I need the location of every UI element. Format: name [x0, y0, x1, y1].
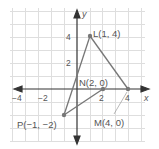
label-P: P(−1, −2)	[17, 119, 57, 130]
tick-x-2: 2	[99, 93, 104, 103]
coordinate-plane: −4 −2 2 4 4 2 x y L(1, 4) N(2, 0) M(4, 0…	[0, 0, 159, 149]
point-P	[62, 113, 66, 117]
point-M	[126, 87, 130, 91]
points	[62, 34, 130, 117]
label-N: N(2, 0)	[79, 77, 108, 88]
label-M: M(4, 0)	[94, 117, 124, 128]
segments	[64, 36, 128, 115]
y-axis-label: y	[81, 9, 87, 19]
tick-y-2: 2	[66, 58, 71, 68]
point-L	[88, 34, 92, 38]
point-labels: L(1, 4) N(2, 0) M(4, 0) P(−1, −2)	[17, 28, 124, 130]
tick-x-neg2: −2	[38, 93, 48, 103]
x-axis-label: x	[143, 93, 149, 103]
label-L: L(1, 4)	[93, 28, 120, 39]
tick-x-4: 4	[125, 93, 130, 103]
tick-x-neg4: −4	[12, 93, 22, 103]
tick-y-4: 4	[66, 32, 71, 42]
